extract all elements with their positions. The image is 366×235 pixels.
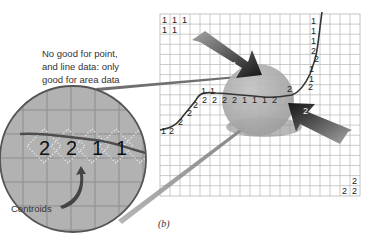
svg-text:1: 1 [182,15,187,25]
svg-text:1: 1 [162,15,167,25]
svg-text:2: 2 [187,108,192,118]
svg-text:2: 2 [352,186,357,196]
svg-text:2: 2 [308,82,313,92]
svg-text:2: 2 [202,95,207,105]
svg-text:1: 1 [172,25,177,35]
magnifier-value: 2 [66,137,77,159]
annotation-line-3: good for area data [42,73,120,86]
figure-caption: (b) [158,218,170,229]
arrow-2-label: 2 [303,106,308,116]
svg-text:1: 1 [172,15,177,25]
svg-text:1: 1 [309,64,314,74]
svg-text:2: 2 [178,117,183,127]
svg-text:2: 2 [193,100,198,110]
svg-text:1: 1 [311,36,316,46]
svg-text:2: 2 [169,126,174,136]
svg-text:2: 2 [352,176,357,186]
svg-text:2: 2 [272,95,277,105]
svg-text:1: 1 [311,26,316,36]
svg-text:1: 1 [242,95,247,105]
svg-text:1: 1 [311,16,316,26]
svg-text:1: 1 [252,95,257,105]
svg-text:2: 2 [287,84,292,94]
magnifier-value: 1 [116,137,127,159]
svg-text:2: 2 [314,54,319,64]
svg-text:2: 2 [232,95,237,105]
annotation-line-1: No good for point, [42,47,120,60]
annotation-text: No good for point, and line data: only g… [42,47,120,86]
raster-diagram: 111 11 2 22 12 222 11 2222 1112 2 111 22… [0,0,366,235]
svg-text:2: 2 [222,95,227,105]
svg-text:2: 2 [212,95,217,105]
magnifier-value: 1 [92,137,103,159]
centroids-label: Centroids [11,202,52,215]
magnifier-value: 2 [39,137,50,159]
svg-text:1: 1 [262,95,267,105]
annotation-line-2: and line data: only [42,60,120,73]
svg-text:1: 1 [161,126,166,136]
svg-text:2: 2 [342,186,347,196]
arrow-1-label: 1 [232,60,237,70]
svg-text:1: 1 [162,25,167,35]
